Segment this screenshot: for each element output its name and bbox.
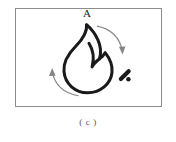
figure-panel: [15, 8, 162, 107]
panel-label-A: A: [78, 8, 96, 19]
flame-icon: [64, 25, 112, 93]
figure-caption: ( c ): [0, 116, 176, 128]
figure-drawing-canvas: [16, 9, 161, 106]
spark-mark-icon: [121, 71, 131, 81]
